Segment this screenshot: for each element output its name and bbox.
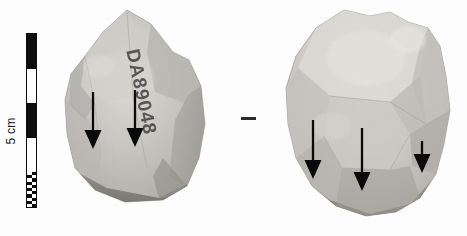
scale-bar-group: 5 cm	[0, 0, 52, 236]
scale-checker-left-column	[27, 172, 32, 207]
specimen-left-facets	[55, 8, 240, 223]
specimen-right	[270, 6, 462, 230]
separator-dash	[241, 117, 256, 120]
archaeology-figure: 5 cm	[0, 0, 467, 236]
texture-grain	[55, 8, 240, 223]
scale-segment-black-1	[27, 34, 36, 69]
scale-segment-white-1	[27, 69, 36, 104]
specimen-right-image	[270, 6, 462, 230]
scale-bar	[26, 33, 37, 208]
specimen-left-image	[55, 8, 240, 223]
scale-segment-black-2	[27, 103, 36, 138]
specimen-right-facets	[270, 6, 462, 230]
texture-grain	[270, 6, 462, 230]
specimen-left	[55, 8, 240, 223]
scale-label: 5 cm	[4, 103, 18, 159]
scale-segment-white-2	[27, 138, 36, 173]
scale-segment-checkered-mm	[27, 172, 36, 207]
